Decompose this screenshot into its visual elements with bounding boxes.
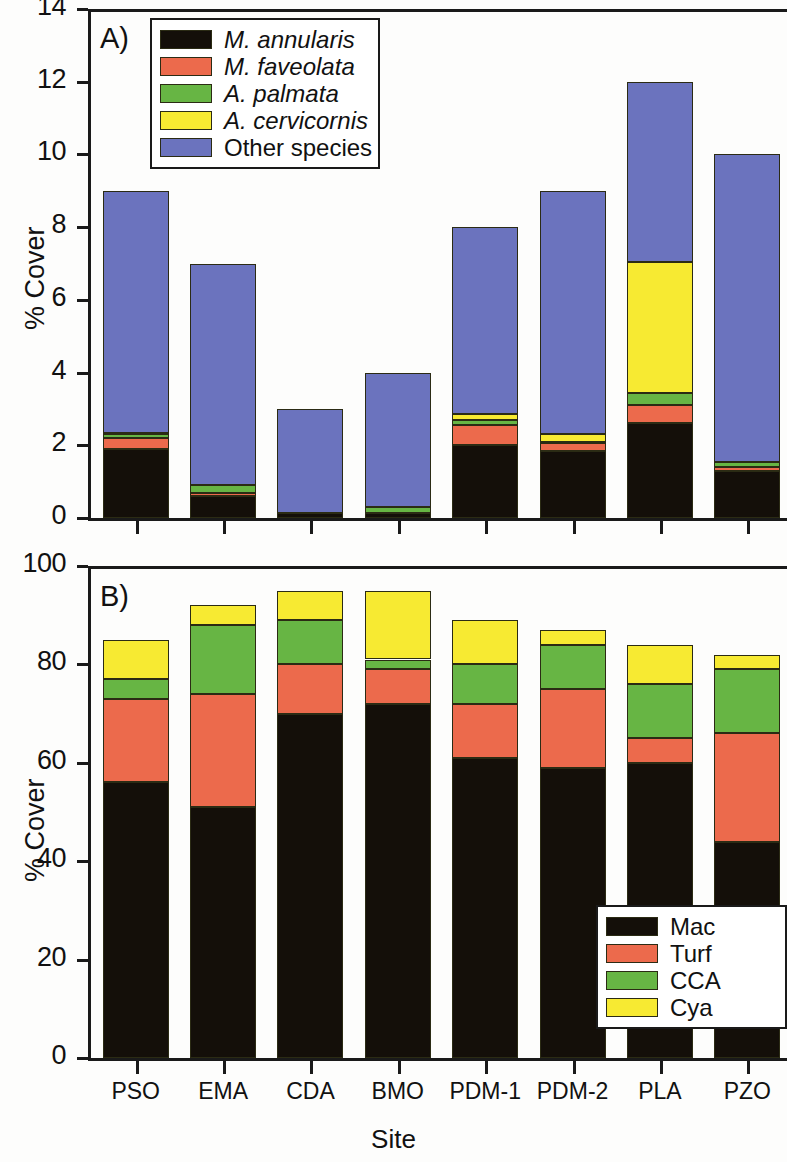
legend-label: Turf <box>670 942 712 966</box>
bar-segment <box>627 645 693 684</box>
y-tick-mark <box>77 153 88 156</box>
y-tick-mark <box>77 959 88 962</box>
x-tick-mark <box>660 1061 663 1074</box>
panel-b-x-axis-line <box>88 1058 787 1061</box>
x-tick-label-pso: PSO <box>111 1078 160 1105</box>
bar-pdm-1 <box>452 9 518 518</box>
y-tick-label: 0 <box>0 502 66 529</box>
y-tick-mark <box>77 663 88 666</box>
bar-cda <box>277 566 343 1058</box>
y-tick-label: 4 <box>0 357 66 384</box>
y-tick-mark <box>77 565 88 568</box>
x-tick-mark <box>747 521 750 534</box>
bar-segment <box>714 669 780 733</box>
y-tick-label: 40 <box>0 845 66 872</box>
bar-segment <box>452 664 518 703</box>
x-tick-mark <box>398 1061 401 1074</box>
legend-swatch-icon <box>606 998 658 1017</box>
legend-row: Other species <box>160 134 368 161</box>
bar-segment <box>277 714 343 1058</box>
x-tick-mark <box>573 1061 576 1074</box>
x-tick-mark <box>747 1061 750 1074</box>
bar-bmo <box>365 566 431 1058</box>
bar-pzo <box>714 9 780 518</box>
bar-segment <box>452 758 518 1058</box>
bar-segment <box>103 191 169 433</box>
bar-segment <box>540 630 606 645</box>
bar-segment <box>540 191 606 435</box>
bar-segment <box>103 438 169 449</box>
y-tick-mark <box>77 8 88 11</box>
legend-swatch-icon <box>160 84 212 103</box>
x-tick-mark <box>136 1061 139 1074</box>
y-tick-label: 20 <box>0 944 66 971</box>
bar-pdm-1 <box>452 566 518 1058</box>
bar-segment <box>627 423 693 518</box>
bar-segment <box>365 513 431 518</box>
legend-row: A. cervicornis <box>160 107 368 134</box>
bar-segment <box>452 414 518 419</box>
y-tick-mark <box>77 762 88 765</box>
legend-row: A. palmata <box>160 80 368 107</box>
y-tick-label: 2 <box>0 429 66 456</box>
bar-segment <box>452 227 518 414</box>
bar-ema <box>190 566 256 1058</box>
bar-segment <box>103 449 169 518</box>
bar-pso <box>103 566 169 1058</box>
x-tick-label-pzo: PZO <box>724 1078 771 1105</box>
panel-b: % Cover 020406080100 B) PSOEMACDABMOPDM-… <box>0 552 787 1162</box>
panel-a-x-axis-line <box>88 518 787 521</box>
y-tick-mark <box>77 81 88 84</box>
x-tick-mark <box>398 521 401 534</box>
x-tick-mark <box>136 521 139 534</box>
bar-segment <box>365 591 431 660</box>
legend-swatch-icon <box>160 138 212 157</box>
bar-segment <box>627 738 693 763</box>
bar-segment <box>365 373 431 508</box>
x-tick-label-pdm-2: PDM-2 <box>537 1078 609 1105</box>
panel-a-y-axis-title: % Cover <box>20 226 51 330</box>
bar-segment <box>452 420 518 425</box>
y-tick-mark <box>77 372 88 375</box>
y-tick-label: 12 <box>0 66 66 93</box>
y-tick-mark <box>77 1057 88 1060</box>
panel-a-legend: M. annularisM. faveolataA. palmataA. cer… <box>150 18 380 169</box>
bar-segment <box>714 655 780 670</box>
bar-segment <box>540 443 606 450</box>
bar-segment <box>190 605 256 625</box>
y-tick-label: 60 <box>0 747 66 774</box>
y-tick-label: 80 <box>0 648 66 675</box>
bar-segment <box>365 660 431 670</box>
bar-segment <box>627 82 693 262</box>
y-tick-mark <box>77 860 88 863</box>
bar-pdm-2 <box>540 9 606 518</box>
bar-segment <box>365 704 431 1058</box>
bar-segment <box>452 620 518 664</box>
legend-label: Cya <box>670 996 713 1020</box>
x-tick-mark <box>223 1061 226 1074</box>
bar-segment <box>190 485 256 492</box>
panel-b-legend: MacTurfCCACya <box>596 905 787 1029</box>
bar-segment <box>103 640 169 679</box>
bar-segment <box>190 694 256 807</box>
bar-segment <box>277 513 343 518</box>
bar-segment <box>714 154 780 461</box>
bar-segment <box>277 664 343 713</box>
bar-segment <box>190 807 256 1058</box>
legend-label: A. palmata <box>224 82 339 106</box>
y-tick-mark <box>77 444 88 447</box>
x-tick-label-pdm-1: PDM-1 <box>449 1078 521 1105</box>
legend-row: Cya <box>606 994 775 1021</box>
y-tick-label: 0 <box>0 1042 66 1069</box>
bar-segment <box>714 471 780 518</box>
x-tick-label-pla: PLA <box>638 1078 681 1105</box>
bar-segment <box>540 451 606 518</box>
bar-segment <box>627 405 693 423</box>
legend-row: M. annularis <box>160 26 368 53</box>
bar-segment <box>277 620 343 664</box>
figure-root: % Cover 02468101214 A) M. annularisM. fa… <box>0 0 787 1162</box>
bar-segment <box>714 733 780 841</box>
bar-segment <box>365 669 431 703</box>
legend-row: Mac <box>606 913 775 940</box>
bar-segment <box>627 684 693 738</box>
